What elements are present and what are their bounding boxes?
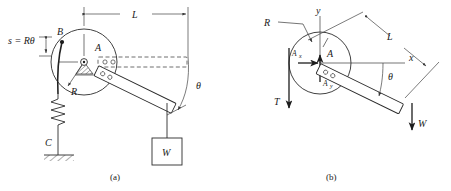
radius-leader-b: [278, 22, 303, 24]
label-radius-a: R: [70, 86, 77, 97]
label-length-b: L: [386, 31, 393, 42]
figure-svg: s = Rθ B A R C L θ W (a): [0, 0, 451, 191]
panel-a: s = Rθ B A R C L θ W (a): [8, 7, 201, 182]
label-ax-sub: x: [298, 53, 302, 59]
label-point-b: B: [57, 26, 63, 37]
caption-a: (a): [110, 172, 120, 182]
label-ay-sub: y: [329, 83, 333, 89]
label-arc-length: s = Rθ: [8, 35, 35, 46]
label-angle-b: θ: [388, 71, 393, 82]
label-point-c: C: [45, 137, 52, 148]
label-weight-b: W: [418, 118, 428, 129]
label-length-a: L: [131, 9, 138, 20]
point-b-dot: [60, 40, 64, 44]
angle-theta-b: [379, 63, 383, 96]
dim-line-right-b: [404, 48, 426, 66]
rod-inclined-a: [94, 66, 176, 114]
label-ax-main: A: [291, 49, 297, 58]
label-ay-main: A: [322, 79, 328, 88]
label-axis-y-b: y: [315, 5, 321, 16]
theta-arc-b: [379, 63, 383, 96]
rod-body-a: [94, 66, 176, 114]
ground-support-c: [44, 155, 74, 161]
figure-root: s = Rθ B A R C L θ W (a): [0, 0, 451, 191]
dim-ext-right-b: [405, 62, 439, 98]
label-tension-b: T: [274, 96, 281, 107]
label-radius-b: R: [263, 17, 270, 28]
label-angle-a: θ: [196, 80, 201, 91]
spring-a: [51, 94, 65, 155]
label-axis-x-b: x: [408, 52, 414, 63]
pin-center-dot-a: [83, 61, 85, 63]
rod-dashed-hole-1: [103, 60, 107, 64]
rod-dashed-hole-2: [111, 60, 115, 64]
label-point-a-b: A: [326, 48, 334, 59]
dimension-s-a: [39, 37, 52, 56]
caption-b: (b): [326, 172, 337, 182]
panel-b: R A y x A x A y T L θ W (b): [263, 5, 439, 182]
label-point-a: A: [94, 42, 102, 53]
